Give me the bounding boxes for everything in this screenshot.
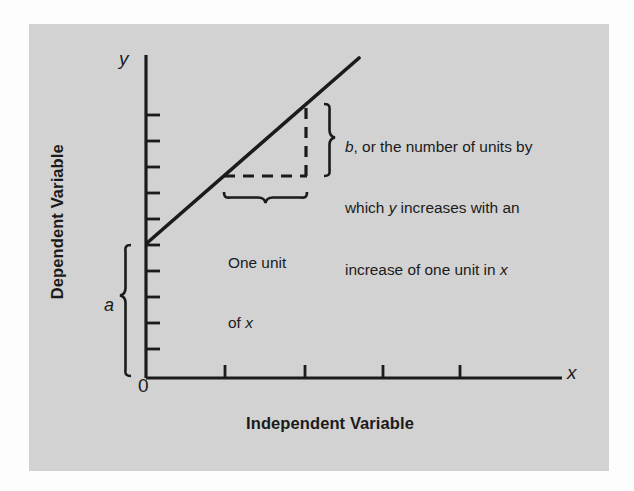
run-annotation-line-1: One unit (228, 253, 368, 273)
x-axis-title: Independent Variable (150, 414, 510, 433)
run-annotation-line-2: of x (228, 313, 368, 333)
y-axis-title: Dependent Variable (48, 112, 67, 332)
slope-annotation-line-1: b, or the number of units by (345, 137, 595, 157)
intercept-brace (120, 245, 131, 376)
rise-brace (324, 104, 335, 176)
intercept-label: a (104, 295, 114, 316)
y-axis-symbol-label: y (119, 48, 129, 70)
slope-annotation-text: b, or the number of units by which y inc… (345, 96, 595, 321)
run-annotation-text: One unit of x (228, 213, 368, 373)
slope-annotation-line-2: which y increases with an (345, 198, 595, 218)
run-brace (224, 192, 307, 203)
origin-label: 0 (138, 375, 149, 397)
slope-annotation-line-3: increase of one unit in x (345, 260, 595, 280)
x-axis-symbol-label: x (567, 362, 577, 384)
figure-page: Dependent Variable Independent Variable … (0, 0, 634, 491)
